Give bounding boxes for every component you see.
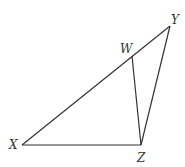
segment-wz bbox=[132, 56, 141, 145]
triangle-diagram: Y W X Z bbox=[0, 0, 185, 167]
label-z: Z bbox=[136, 151, 146, 165]
label-w: W bbox=[120, 42, 134, 56]
label-x: X bbox=[8, 138, 18, 152]
segment-xy bbox=[22, 26, 170, 145]
label-y: Y bbox=[171, 13, 180, 27]
segment-yz bbox=[141, 26, 170, 145]
